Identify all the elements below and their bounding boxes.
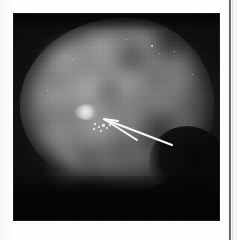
film-bottom-band [14, 176, 219, 220]
calcification-speck [106, 127, 108, 129]
calcification-speck [93, 128, 95, 130]
figure-caption [14, 222, 219, 238]
tissue-contour-notch-secondary [169, 136, 215, 176]
page-gutter-rule-shadow [232, 0, 233, 240]
page-gutter-rule [229, 0, 231, 240]
page-canvas [0, 0, 237, 240]
calcification-speck [98, 126, 100, 128]
calcification-speck [100, 130, 102, 132]
calcification-cluster-icon [74, 104, 100, 120]
calcification-speck [109, 124, 111, 126]
film-speck [151, 45, 153, 47]
calcification-speck [102, 124, 105, 127]
mammogram-image[interactable] [14, 14, 219, 220]
film-top-band [14, 14, 219, 30]
